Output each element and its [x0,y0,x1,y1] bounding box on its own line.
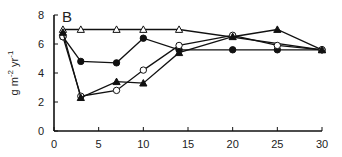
y-tick-label: 4 [38,67,44,79]
data-point [176,42,182,48]
x-tick-label: 25 [271,138,283,150]
y-axis-label: g m-2 yr-1 [6,50,20,95]
y-tick-label: 2 [38,96,44,108]
x-tick-label: 5 [96,138,102,150]
x-tick-label: 20 [227,138,239,150]
line-chart: 05101520253002468 B g m-2 yr-1 [0,0,342,157]
y-tick-label: 0 [38,125,44,137]
y-tick-label: 6 [38,38,44,50]
data-point [274,42,280,48]
panel-label: B [62,8,72,25]
series-filled-triangle [59,26,325,101]
x-tick-label: 0 [51,138,57,150]
data-point [78,58,84,64]
y-tick-label: 8 [38,9,44,21]
x-tick-label: 15 [182,138,194,150]
data-point [113,60,119,66]
data-point [229,47,235,53]
data-point [274,26,281,32]
data-series [59,26,325,101]
data-point [140,67,146,73]
series-filled-circle [60,34,325,66]
x-tick-label: 30 [316,138,328,150]
x-tick-label: 10 [137,138,149,150]
data-point [113,87,119,93]
data-point [140,35,146,41]
